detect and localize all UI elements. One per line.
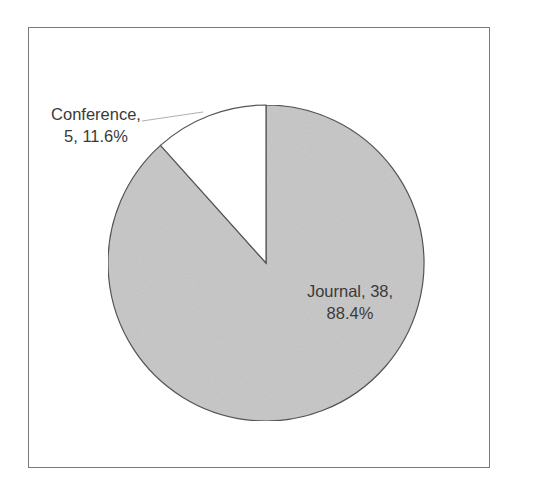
data-label-conference: Conference, 5, 11.6% <box>36 103 156 147</box>
journal-label-line1: Journal, 38, <box>290 280 410 302</box>
conference-label-line1: Conference, <box>36 103 156 125</box>
conference-label-line2: 5, 11.6% <box>36 125 156 147</box>
journal-label-line2: 88.4% <box>290 302 410 324</box>
pie-chart <box>0 0 542 499</box>
data-label-journal: Journal, 38, 88.4% <box>290 280 410 324</box>
